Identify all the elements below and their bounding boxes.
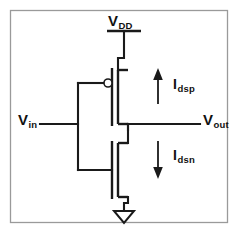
idsp-arrowhead-icon [153, 68, 163, 80]
circuit-figure: VDD Vin Vout Idsp Idsn [0, 0, 248, 235]
input-node-label: Vin [18, 112, 37, 128]
supply-label-subscript: DD [119, 20, 133, 31]
ground-symbol-icon [114, 211, 134, 223]
idsn-arrowhead-icon [153, 167, 163, 179]
pmos-current-subscript: dsp [177, 83, 195, 94]
output-node-label: Vout [203, 112, 228, 128]
input-label-subscript: in [29, 119, 38, 130]
supply-rail-label: VDD [108, 13, 132, 29]
input-label-base: V [18, 111, 28, 128]
output-label-base: V [203, 111, 213, 128]
nmos-current-label: Idsn [173, 147, 194, 163]
pmos-inversion-bubble-icon [104, 79, 112, 87]
nmos-source-to-ground-wire [124, 197, 128, 211]
pmos-current-label: Idsp [173, 76, 194, 92]
supply-label-base: V [108, 12, 118, 29]
output-label-subscript: out [214, 119, 229, 130]
vdd-to-pmos-source-wire [118, 31, 124, 70]
nmos-current-subscript: dsn [177, 154, 195, 165]
